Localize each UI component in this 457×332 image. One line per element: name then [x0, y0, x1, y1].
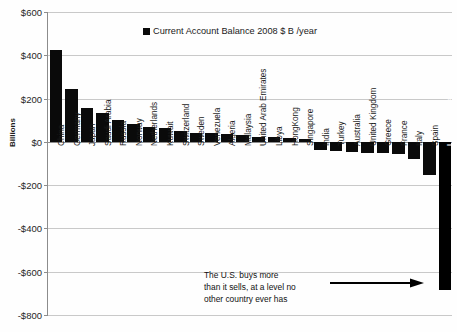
bar	[112, 120, 124, 142]
y-axis-tick-label: -$200	[0, 180, 42, 191]
bar	[50, 50, 62, 142]
bar	[127, 124, 139, 142]
y-axis-tick-label: $0	[0, 136, 42, 147]
y-axis-tick-label: $400	[0, 50, 42, 61]
bar	[221, 134, 233, 141]
bar	[283, 138, 295, 142]
legend-swatch-icon	[143, 28, 150, 35]
y-axis-tick-label: $600	[0, 7, 42, 18]
bar	[236, 135, 248, 141]
bar	[190, 133, 202, 142]
bar-chart: Billions $600$400$200$0-$200-$400-$600-$…	[0, 0, 457, 332]
bar	[268, 137, 280, 142]
bar	[299, 139, 311, 142]
bar	[252, 137, 264, 142]
bar	[159, 128, 171, 142]
bar	[423, 142, 435, 175]
bar	[361, 142, 373, 153]
bar	[96, 113, 108, 142]
y-axis-tick-label: -$400	[0, 223, 42, 234]
bar	[330, 142, 342, 151]
bar	[377, 142, 389, 153]
bar	[408, 142, 420, 159]
y-axis-tick-mark	[44, 315, 48, 316]
annotation-line-2: than it sells, at a level no	[204, 282, 324, 294]
annotation-arrow-icon	[330, 277, 426, 289]
annotation-text: The U.S. buys more than it sells, at a l…	[204, 270, 324, 306]
y-axis-tick-label: $200	[0, 93, 42, 104]
legend-label: Current Account Balance 2008 $ B /year	[153, 26, 317, 36]
annotation-line-3: other country ever has	[204, 294, 324, 306]
bar	[314, 142, 326, 150]
bar	[346, 142, 358, 152]
bar	[392, 142, 404, 154]
annotation-line-1: The U.S. buys more	[204, 270, 324, 282]
bar	[439, 142, 451, 290]
bar	[65, 89, 77, 142]
bar	[143, 127, 155, 142]
bar	[81, 108, 93, 142]
y-axis-tick-labels: $600$400$200$0-$200-$400-$600-$800	[0, 0, 42, 332]
bar	[205, 133, 217, 141]
y-axis-tick-label: -$800	[0, 310, 42, 321]
y-axis-tick-label: -$600	[0, 266, 42, 277]
gridline	[48, 315, 452, 316]
legend: Current Account Balance 2008 $ B /year	[143, 26, 317, 36]
bar	[174, 131, 186, 141]
